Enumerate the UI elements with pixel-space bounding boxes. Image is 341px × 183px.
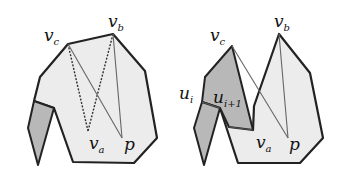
left-shaded-pocket	[28, 101, 54, 165]
label-vc: vc	[44, 25, 60, 47]
right-panel: vc vb va p ui ui+1	[179, 11, 323, 165]
label-vb: vb	[274, 11, 290, 33]
left-panel: vc vb va p	[28, 11, 157, 165]
label-vc: vc	[210, 25, 226, 47]
polygon-visibility-diagram: vc vb va p vc vb va p ui ui+1	[0, 0, 341, 183]
label-ui: ui	[179, 83, 193, 105]
right-shaded-pocket	[194, 102, 220, 165]
label-vb: vb	[108, 11, 124, 33]
label-p: p	[124, 134, 135, 154]
label-p: p	[289, 134, 300, 154]
